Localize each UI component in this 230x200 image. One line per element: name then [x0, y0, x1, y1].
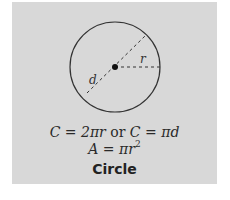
circumference-formula: C = 2πr or C = πd [12, 124, 217, 140]
circumference-symbol-2: C [130, 124, 141, 140]
circumference-symbol: C [50, 124, 61, 140]
area-expr: πr [119, 141, 135, 157]
circumference-expr-radius: 2πr [81, 124, 106, 140]
circumference-expr-diameter: πd [161, 124, 179, 140]
radius-label: r [140, 52, 147, 66]
or-connector: or [110, 124, 125, 140]
center-point [112, 64, 118, 70]
figure-title: Circle [12, 161, 217, 177]
diameter-label: d [89, 73, 97, 87]
area-formula: A = πr2 [12, 141, 217, 157]
area-exponent: 2 [135, 139, 141, 149]
circle-figure-card: r d C = 2πr or C = πd A = πr2 Circle [12, 2, 217, 184]
area-symbol: A [88, 141, 98, 157]
circle-diagram: r d [12, 2, 217, 122]
